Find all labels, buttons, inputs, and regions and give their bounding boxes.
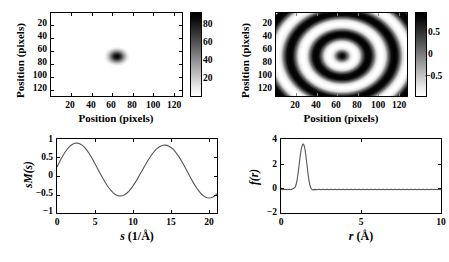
panel-b-xlabel: Position (pixels) (304, 113, 379, 124)
panel-b-ytick-60: 60 (247, 45, 272, 55)
panel-a-cbar-tick-20: 20 (203, 74, 221, 84)
panel-a-xtick-40: 40 (86, 101, 96, 111)
f-of-r-curve (281, 139, 441, 213)
panel-b-xtick-120: 120 (392, 101, 406, 111)
panel-b-colorbar (415, 12, 427, 97)
panel-b-ytick-20: 20 (247, 19, 272, 29)
panel-a-ytick-40: 40 (22, 32, 47, 42)
panel-c-xtick-15: 15 (166, 218, 176, 228)
panel-b-xtick-100: 100 (371, 101, 385, 111)
panel-d-ylabel-arg: (r) (248, 169, 260, 181)
panel-d-ytick-0: 0 (252, 184, 277, 194)
panel-a-plot-area (50, 12, 183, 97)
panel-b-xtick-20: 20 (290, 101, 300, 111)
panel-d-xlabel: r (Å) (349, 230, 373, 242)
panel-a-ytick-20: 20 (22, 19, 47, 29)
panel-a-xtick-80: 80 (127, 101, 137, 111)
panel-a-xtick-120: 120 (167, 101, 181, 111)
panel-d-xlabel-r: r (349, 229, 354, 243)
panel-a-ytick-80: 80 (22, 58, 47, 68)
panel-d-plot-area (280, 138, 442, 214)
panel-a-ytick-120: 120 (15, 84, 47, 94)
panel-d-ytick-n2: −2 (248, 208, 277, 218)
panel-c-ytick-1: 1 (26, 135, 53, 145)
panel-c-xtick-10: 10 (128, 218, 138, 228)
panel-b-xtick-60: 60 (331, 101, 341, 111)
panel-b-ytick-80: 80 (247, 58, 272, 68)
panel-c-ylabel-s: s (22, 184, 34, 188)
panel-c-ytick-n05: −0.5 (22, 189, 53, 199)
panel-b-xtick-40: 40 (311, 101, 321, 111)
panel-d-xtick-5: 5 (359, 218, 364, 228)
panel-a-xtick-20: 20 (65, 101, 75, 111)
panel-d-xlabel-unit: (Å) (357, 229, 374, 243)
panel-a-ytick-60: 60 (22, 45, 47, 55)
spot-image (51, 13, 182, 96)
ring-pattern-image (276, 13, 407, 96)
panel-a-xtick-60: 60 (106, 101, 116, 111)
panel-b-cbar-tick-05: 0.5 (428, 28, 449, 38)
panel-a-ytick-100: 100 (15, 71, 47, 81)
panel-a-xtick-100: 100 (146, 101, 160, 111)
panel-a-xlabel: Position (pixels) (79, 113, 154, 124)
panel-c-xlabel-unit: (1/Å) (128, 229, 154, 243)
panel-b-cbar-tick-n05: −0.5 (425, 72, 449, 82)
panel-b-ytick-40: 40 (247, 32, 272, 42)
panel-b-xtick-80: 80 (352, 101, 362, 111)
panel-c-xtick-5: 5 (93, 218, 98, 228)
panel-a-cbar-tick-80: 80 (203, 20, 221, 30)
panel-d-xtick-10: 10 (436, 218, 446, 228)
panel-a-cbar-tick-40: 40 (203, 56, 221, 66)
panel-d-ytick-2: 2 (252, 160, 277, 170)
panel-b-ytick-100: 100 (240, 71, 272, 81)
panel-c-ytick-05: 0.5 (26, 153, 53, 163)
panel-c-ytick-n1: −1 (22, 207, 53, 217)
figure-root: Position (pixels) 20 40 60 80 100 120 (0, 0, 449, 262)
panel-c-xlabel: s (1/Å) (120, 230, 154, 242)
panel-b-plot-area (275, 12, 408, 97)
panel-c-plot-area (56, 138, 218, 214)
panel-c-xtick-20: 20 (204, 218, 214, 228)
panel-b-ytick-120: 120 (240, 84, 272, 94)
panel-a-colorbar (190, 12, 202, 97)
panel-c-ytick-0: 0 (26, 171, 53, 181)
panel-a-cbar-tick-60: 60 (203, 38, 221, 48)
panel-d-xtick-0: 0 (279, 218, 284, 228)
panel-c-xlabel-s: s (120, 229, 125, 243)
sm-of-s-curve (57, 139, 217, 213)
panel-d-ytick-4: 4 (252, 135, 277, 145)
panel-c-xtick-0: 0 (55, 218, 60, 228)
panel-b-cbar-tick-0: 0 (428, 50, 449, 60)
panel-d-ylabel: f(r) (248, 169, 260, 185)
